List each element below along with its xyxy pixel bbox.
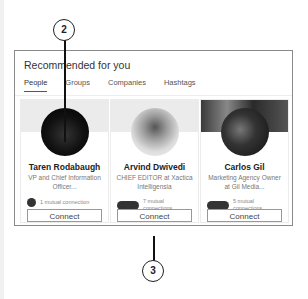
connect-button[interactable]: Connect [207, 209, 282, 222]
person-name[interactable]: Carlos Gil [201, 162, 288, 172]
mutual-connections: 1 mutual connection [27, 198, 104, 207]
person-card[interactable]: Carlos Gil Marketing Agency Owner at Gil… [200, 99, 289, 223]
mutual-text: 1 mutual connection [40, 199, 89, 206]
tab-people[interactable]: People [24, 78, 47, 92]
person-headline: CHIEF EDITOR at Xactica Intelligensia [115, 173, 194, 191]
tab-companies[interactable]: Companies [108, 78, 146, 92]
avatar[interactable] [221, 108, 269, 156]
person-headline: Marketing Agency Owner at Gil Media... [205, 173, 284, 191]
avatar[interactable] [131, 108, 179, 156]
page-edge [0, 0, 4, 299]
tab-groups[interactable]: Groups [65, 78, 90, 92]
callout-leader-line [64, 40, 66, 142]
connect-button[interactable]: Connect [117, 209, 192, 222]
tab-bar: People Groups Companies Hashtags [24, 78, 214, 92]
person-name[interactable]: Arvind Dwivedi [111, 162, 198, 172]
recommended-panel: Recommended for you People Groups Compan… [14, 50, 293, 226]
person-headline: VP and Chief Information Officer... [25, 173, 104, 191]
person-card[interactable]: Arvind Dwivedi CHIEF EDITOR at Xactica I… [110, 99, 199, 223]
tab-hashtags[interactable]: Hashtags [164, 78, 196, 92]
callout-leader-line [153, 236, 155, 261]
mutual-avatar-icon [27, 198, 36, 207]
callout-marker-2: 2 [53, 19, 75, 41]
person-name[interactable]: Taren Rodabaugh [21, 162, 108, 172]
connect-button[interactable]: Connect [27, 209, 102, 222]
panel-title: Recommended for you [24, 59, 130, 71]
callout-marker-3: 3 [142, 260, 164, 282]
divider [15, 95, 292, 96]
